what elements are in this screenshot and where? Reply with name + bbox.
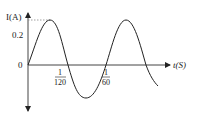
tick-1-120-numerator: 1 [58,68,62,77]
x-axis-label: t(S) [173,60,186,70]
current-time-graph: I(A) 0.2 0 1 120 1 60 t(S) [0,0,203,118]
current-curve [28,20,158,98]
peak-value-label: 0.2 [12,30,23,40]
tick-1-60-numerator: 1 [104,68,108,77]
y-axis-label: I(A) [6,12,22,22]
tick-1-120-denominator: 120 [54,78,66,87]
origin-label: 0 [18,60,23,70]
tick-1-60-denominator: 60 [102,78,110,87]
